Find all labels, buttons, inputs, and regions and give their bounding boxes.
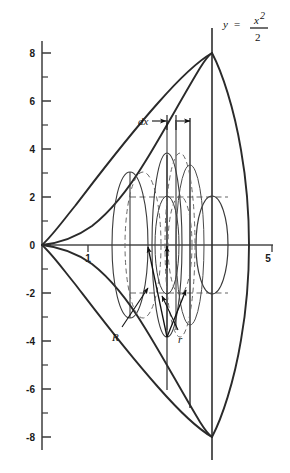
dx-label: dx — [138, 115, 149, 127]
y-tick-label-8: 8 — [29, 48, 35, 59]
x-tick-label-5: 5 — [265, 253, 271, 264]
equation-exponent: 2 — [260, 10, 265, 21]
equation-lhs: y — [222, 18, 228, 30]
figure-canvas: 8 6 4 2 0 -2 -4 -6 -8 1 5 — [0, 0, 290, 473]
R-label: R — [111, 331, 119, 343]
axes-group: 8 6 4 2 0 -2 -4 -6 -8 1 5 — [26, 41, 273, 450]
y-tick-label-0: 0 — [29, 240, 35, 251]
equation-label-group: y = x 2 2 — [222, 10, 268, 43]
y-tick-label-neg4: -4 — [26, 336, 35, 347]
y-tick-label-6: 6 — [29, 96, 35, 107]
envelope-lower-curve — [42, 245, 212, 437]
r-label: r — [178, 333, 183, 345]
equation-numerator: x — [253, 14, 259, 26]
equation-equals: = — [234, 18, 240, 30]
y-tick-label-4: 4 — [29, 144, 35, 155]
equation-denominator: 2 — [255, 31, 261, 43]
y-tick-label-neg8: -8 — [26, 432, 35, 443]
solid-right-boundary-lower — [212, 245, 249, 437]
solid-right-boundary-upper — [212, 53, 249, 245]
envelope-upper-curve — [42, 53, 212, 245]
x-axis-ticks — [88, 245, 272, 252]
y-tick-label-neg2: -2 — [26, 288, 35, 299]
y-tick-label-neg6: -6 — [26, 384, 35, 395]
solid-of-revolution-figure: 8 6 4 2 0 -2 -4 -6 -8 1 5 — [0, 0, 290, 473]
dx-annotation-group: dx — [138, 115, 190, 130]
vee-left-arm — [148, 247, 167, 337]
R-leader-line — [122, 288, 148, 327]
y-tick-label-2: 2 — [29, 192, 35, 203]
